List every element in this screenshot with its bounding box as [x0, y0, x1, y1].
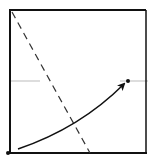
origami-diagram [0, 0, 149, 165]
valley-fold-line [12, 12, 90, 153]
corner-point [6, 151, 10, 155]
target-point [126, 79, 130, 83]
fold-arrow-icon [18, 84, 124, 149]
